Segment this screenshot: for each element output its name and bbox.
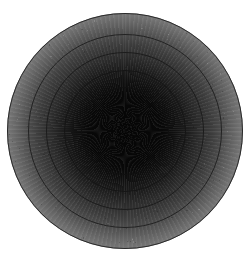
plot-area bbox=[0, 0, 249, 261]
figure-root: Concentric greyscale contour plot: a cir… bbox=[0, 0, 249, 261]
radial-density-field bbox=[7, 13, 243, 249]
